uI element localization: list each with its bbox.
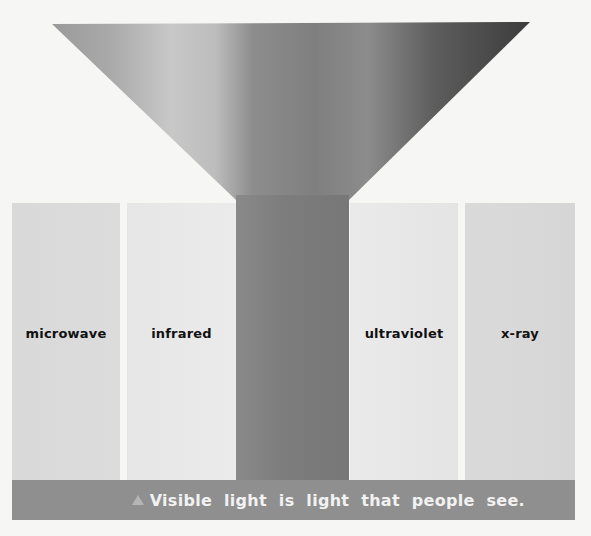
panel-infrared: infrared	[127, 203, 236, 480]
panel-label: ultraviolet	[365, 326, 444, 341]
panel-label: microwave	[26, 326, 107, 341]
caption-text: Visible light is light that people see.	[150, 491, 525, 510]
panel-ultraviolet: ultraviolet	[350, 203, 458, 480]
panel-microwave: microwave	[12, 203, 120, 480]
panel-label: infrared	[151, 326, 212, 341]
caption-bar: Visible light is light that people see.	[12, 480, 575, 520]
panel-x-ray: x-ray	[465, 203, 575, 480]
panel-label: x-ray	[501, 326, 539, 341]
triangle-icon	[132, 495, 144, 505]
